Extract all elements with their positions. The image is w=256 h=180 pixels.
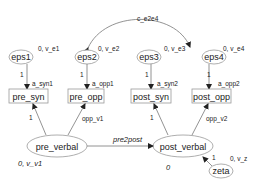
loading-pre-syn <box>33 104 46 135</box>
svg-text:post_opp: post_opp <box>193 92 230 102</box>
svg-text:pre_syn: pre_syn <box>12 92 44 102</box>
path-eps1-coef: 1 <box>20 71 24 78</box>
svg-text:pre_verbal: pre_verbal <box>36 142 79 152</box>
path-eps3-intercept: a_syn2 <box>157 80 178 88</box>
observed-post-syn[interactable]: post_syn <box>131 89 171 103</box>
error-eps4[interactable]: eps4 <box>202 50 226 64</box>
path-eps2-intercept: a_opp1 <box>92 80 114 88</box>
loading-pre-syn-label: 1 <box>29 114 33 121</box>
svg-text:post_verbal: post_verbal <box>160 142 207 152</box>
svg-text:pre_opp: pre_opp <box>69 92 102 102</box>
loading-post-syn <box>154 104 168 135</box>
eps3-annotation: 0, v_e3 <box>164 45 186 53</box>
observed-pre-opp[interactable]: pre_opp <box>68 89 104 103</box>
path-pre2post-label: pre2post <box>112 135 143 144</box>
error-eps3[interactable]: eps3 <box>137 50 161 64</box>
svg-text:zeta: zeta <box>212 166 229 176</box>
path-eps4-coef: 1 <box>207 71 211 78</box>
error-eps2[interactable]: eps2 <box>75 50 99 64</box>
path-zeta-post-verbal <box>203 157 212 166</box>
eps1-annotation: 0, v_e1 <box>38 45 60 53</box>
svg-text:eps1: eps1 <box>11 52 31 62</box>
svg-text:eps3: eps3 <box>139 52 159 62</box>
observed-pre-syn[interactable]: pre_syn <box>9 89 48 103</box>
svg-text:eps4: eps4 <box>204 52 224 62</box>
svg-text:post_syn: post_syn <box>133 92 169 102</box>
covariance-label: c_e2e4 <box>137 15 159 23</box>
latent-post-verbal[interactable]: post_verbal <box>153 135 213 157</box>
loading-pre-opp-label: opp_v1 <box>82 115 104 123</box>
path-eps2-coef: 1 <box>80 71 84 78</box>
eps4-annotation: 0, v_e4 <box>223 45 245 53</box>
path-eps3-coef: 1 <box>145 71 149 78</box>
path-zeta-label: 1 <box>212 154 216 161</box>
loading-post-syn-label: 1 <box>150 114 154 121</box>
observed-post-opp[interactable]: post_opp <box>192 89 231 103</box>
latent-pre-verbal[interactable]: pre_verbal <box>27 135 87 157</box>
sem-diagram: c_e2e4 eps1 0, v_e1 eps2 0, v_e2 eps3 0,… <box>0 0 256 180</box>
path-eps4-intercept: a_opp2 <box>218 80 240 88</box>
zeta-annotation: 0, v_z <box>230 155 247 163</box>
path-eps1-intercept: a_syn1 <box>32 80 53 88</box>
loading-post-opp-label: opp_v2 <box>206 115 228 123</box>
disturbance-zeta[interactable]: zeta <box>209 164 233 178</box>
pre-verbal-annotation: 0, v_v1 <box>18 159 42 168</box>
eps2-annotation: 0, v_e2 <box>98 45 120 53</box>
svg-text:eps2: eps2 <box>77 52 97 62</box>
error-eps1[interactable]: eps1 <box>9 50 33 64</box>
post-verbal-annotation: 0 <box>166 163 171 172</box>
covariance-arc-e2e4 <box>88 19 190 48</box>
